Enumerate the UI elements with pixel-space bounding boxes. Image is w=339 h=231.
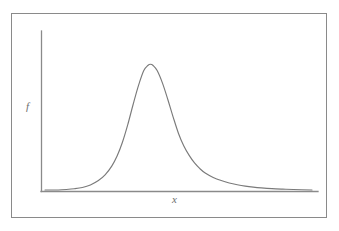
figure-root: f x [0, 0, 339, 231]
y-axis-label: f [26, 101, 29, 112]
density-curve [45, 64, 312, 190]
plot-canvas [0, 0, 339, 231]
x-axis-label: x [172, 194, 177, 205]
